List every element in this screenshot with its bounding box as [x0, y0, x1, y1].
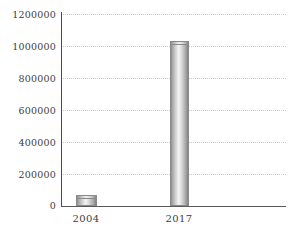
bar-chart: 1200000 1000000 800000 600000 400000 200…	[0, 0, 298, 236]
plot-area	[61, 14, 286, 206]
x-axis-line	[61, 206, 286, 207]
gridline-1200000	[61, 14, 286, 15]
bar-2004	[76, 195, 97, 206]
bar-cap-2004	[76, 195, 97, 199]
bar-cap-2017	[170, 41, 189, 45]
x-tick-label-2017: 2017	[154, 213, 204, 224]
y-tick-label-1200000: 1200000	[12, 9, 56, 20]
y-tick-label-800000: 800000	[19, 73, 56, 84]
y-tick-label-0: 0	[50, 200, 56, 211]
y-tick-label-200000: 200000	[19, 169, 56, 180]
x-tick-label-2004: 2004	[61, 213, 111, 224]
y-axis-line	[61, 12, 62, 207]
bar-2017	[170, 41, 189, 206]
y-tick-label-400000: 400000	[19, 137, 56, 148]
y-tick-label-1000000: 1000000	[12, 41, 56, 52]
y-tick-label-600000: 600000	[19, 105, 56, 116]
